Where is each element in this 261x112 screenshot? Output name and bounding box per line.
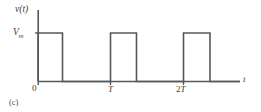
y-axis-label: v(t) xyxy=(15,5,28,15)
origin-label: 0 xyxy=(32,84,37,93)
tick-label-2T: 2T xyxy=(176,85,186,94)
tick-label-2T-symbol: T xyxy=(181,84,186,94)
waveform-plot xyxy=(0,0,261,112)
figure-caption: (c) xyxy=(9,98,18,107)
tick-label-T: T xyxy=(108,85,113,94)
figure-container: v(t) Vm 0 T 2T t (c) xyxy=(0,0,261,112)
x-axis-label: t xyxy=(243,75,246,84)
amplitude-label: Vm xyxy=(13,28,24,39)
pulse-train-waveform xyxy=(38,33,240,82)
amplitude-subscript: m xyxy=(19,32,24,39)
